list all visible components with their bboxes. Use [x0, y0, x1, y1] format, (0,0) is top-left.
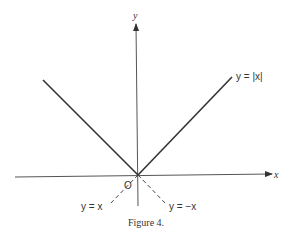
- abs-right-branch: [138, 77, 232, 175]
- figure-caption: Figure 4.: [128, 217, 164, 228]
- abs-left-branch: [43, 80, 138, 175]
- x-axis: [15, 174, 272, 177]
- x-axis-label: x: [273, 169, 279, 180]
- y-equals-neg-x-label: y = −x: [169, 201, 196, 212]
- y-equals-x-label: y = x: [81, 201, 102, 212]
- y-axis: [136, 24, 138, 206]
- abs-curve-label: y = |x|: [236, 71, 263, 82]
- y-axis-label: y: [132, 10, 138, 21]
- figure-canvas: y x O y = |x| y = x y = −x Figure 4.: [0, 0, 290, 237]
- y-equals-neg-x-dashed: [138, 175, 166, 204]
- origin-label: O: [124, 180, 132, 191]
